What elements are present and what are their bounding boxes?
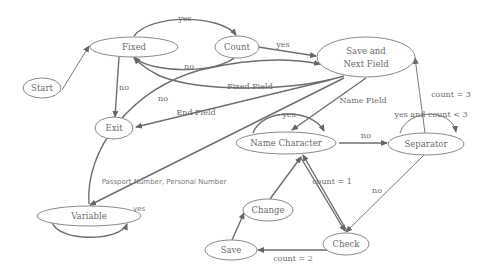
edge-label-no: no xyxy=(158,94,168,103)
edge-label-count-2: count = 2 xyxy=(273,254,313,263)
edge-label-passport: Passport Number, Personal Number xyxy=(102,178,227,186)
edge-label-no: no xyxy=(372,186,382,195)
edge-fixed-count-yes: yes xyxy=(134,14,236,36)
edge-change-namechar xyxy=(270,157,301,199)
edge-label-fixed-field: Fixed Field xyxy=(227,82,273,91)
node-label: Count xyxy=(224,42,251,52)
node-label: Variable xyxy=(70,211,106,221)
node-save-and-next-field: Save and Next Field xyxy=(317,37,415,77)
edge-label-yes: yes xyxy=(177,14,191,23)
edge-label-yes-count-lt-3: yes and count < 3 xyxy=(393,110,467,119)
edge-label-count-3: count = 3 xyxy=(431,90,471,99)
node-name-character: Name Character xyxy=(236,132,336,154)
edge-namechar-check xyxy=(301,158,345,231)
edge-label-name-field: Name Field xyxy=(339,96,386,105)
node-label: Name Character xyxy=(250,138,323,148)
edge-save-change xyxy=(232,213,244,240)
node-label: Save xyxy=(221,245,242,255)
edge-label-end-field: End Field xyxy=(176,108,215,117)
edge-label-no: no xyxy=(361,131,371,140)
node-exit: Exit xyxy=(95,117,133,139)
edge-label-count-1: count = 1 xyxy=(312,177,352,186)
node-label: Exit xyxy=(105,123,123,133)
edge-label-yes: yes xyxy=(281,110,295,119)
edge-separator-savenext-count3: count = 3 xyxy=(415,58,471,133)
edge-start-fixed xyxy=(62,46,89,90)
node-label: Start xyxy=(31,83,53,93)
edge-separator-check-no: no xyxy=(346,155,424,232)
node-separator: Separator xyxy=(388,133,464,155)
node-save: Save xyxy=(205,240,257,260)
edge-label-yes: yes xyxy=(275,40,289,49)
node-label: Change xyxy=(252,205,285,215)
node-check: Check xyxy=(323,233,369,255)
edge-count-savenext-yes: yes xyxy=(258,40,316,56)
edge-label-no: no xyxy=(184,62,194,71)
edge-fixed-exit-no: no xyxy=(115,57,129,117)
node-label: Separator xyxy=(404,139,448,149)
edge-separator-self: yes and count < 3 xyxy=(393,110,467,133)
node-label: Check xyxy=(333,239,361,249)
node-label-line2: Next Field xyxy=(343,59,389,69)
node-fixed: Fixed xyxy=(90,37,178,57)
edge-namechar-separator-no: no xyxy=(339,131,387,143)
edge-check-save-count2: count = 2 xyxy=(258,250,328,263)
edge-count-fixed-no: no xyxy=(134,56,236,71)
state-diagram: yes no yes no Fixed Field End Field no P… xyxy=(0,0,488,276)
node-change: Change xyxy=(243,199,293,221)
edge-label-no: no xyxy=(119,83,129,92)
node-count: Count xyxy=(215,36,259,58)
node-variable: Variable xyxy=(37,206,141,226)
node-start: Start xyxy=(23,78,61,98)
edge-namechar-self-yes: yes xyxy=(253,110,324,133)
node-label-line1: Save and xyxy=(346,46,386,56)
node-label: Fixed xyxy=(122,42,146,52)
edge-check-namechar-count1: count = 1 xyxy=(303,155,352,231)
